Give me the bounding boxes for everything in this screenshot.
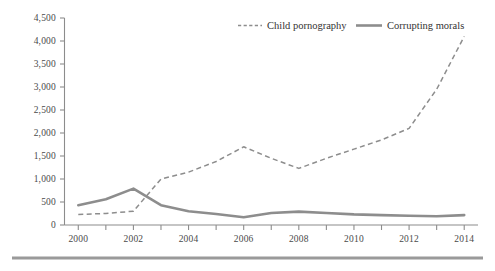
x-axis-tick-label: 2006 xyxy=(234,234,254,244)
y-axis-tick-label: 4,500 xyxy=(34,13,56,23)
series-line-child-pornography xyxy=(78,36,464,214)
chart-figure: 05001,0001,5002,0002,5003,0003,5004,0004… xyxy=(0,0,495,271)
x-axis-tick-label: 2000 xyxy=(68,234,88,244)
x-axis-tick-label: 2012 xyxy=(399,234,419,244)
legend-label-child-pornography: Child pornography xyxy=(267,20,347,31)
y-axis-tick-label: 2,500 xyxy=(34,105,56,115)
y-axis-tick-label: 2,000 xyxy=(34,128,56,138)
x-axis-tick-label: 2014 xyxy=(454,234,474,244)
x-axis-tick-label: 2008 xyxy=(289,234,309,244)
x-axis-tick-label: 2002 xyxy=(124,234,144,244)
y-axis-tick-label: 3,000 xyxy=(34,82,56,92)
x-axis-tick-label-group: 20002002200420062008201020122014 xyxy=(68,234,474,244)
x-axis-tick-label: 2010 xyxy=(344,234,364,244)
y-axis-tick-label: 1,500 xyxy=(34,151,56,161)
y-axis-tick-label: 4,000 xyxy=(34,36,56,46)
y-axis-tick-label-group: 05001,0001,5002,0002,5003,0003,5004,0004… xyxy=(34,13,56,230)
y-axis-tick-mark-group xyxy=(60,18,65,225)
x-axis-tick-mark-group xyxy=(78,225,464,230)
x-axis-tick-label: 2004 xyxy=(179,234,199,244)
y-axis-tick-label: 1,000 xyxy=(34,174,56,184)
legend-label-corrupting-morals: Corrupting morals xyxy=(387,20,464,31)
y-axis-tick-label: 500 xyxy=(41,197,56,207)
y-axis-tick-label: 3,500 xyxy=(34,59,56,69)
line-chart-canvas: 05001,0001,5002,0002,5003,0003,5004,0004… xyxy=(0,0,495,271)
y-axis-tick-label: 0 xyxy=(51,220,56,230)
chart-legend: Child pornography Corrupting morals xyxy=(238,20,464,31)
series-line-corrupting-morals xyxy=(78,189,464,218)
